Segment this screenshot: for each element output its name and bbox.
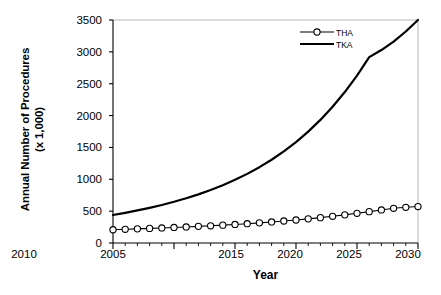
- series-marker-tha: [391, 205, 397, 211]
- series-marker-tha: [415, 203, 421, 209]
- series-marker-tha: [256, 220, 262, 226]
- series-marker-tha: [317, 215, 323, 221]
- series-marker-tha: [147, 225, 153, 231]
- series-marker-tha: [281, 218, 287, 224]
- plot-area: [0, 0, 441, 295]
- series-marker-tha: [171, 224, 177, 230]
- series-marker-tha: [110, 227, 116, 233]
- series-marker-tha: [293, 217, 299, 223]
- series-line-tka: [113, 20, 418, 215]
- series-marker-tha: [354, 210, 360, 216]
- series-marker-tha: [269, 219, 275, 225]
- series-marker-tha: [220, 222, 226, 228]
- series-marker-tha: [232, 221, 238, 227]
- series-marker-tha: [134, 226, 140, 232]
- series-marker-tha: [305, 216, 311, 222]
- series-marker-tha: [378, 207, 384, 213]
- chart-figure: Annual Number of Procedures (x 1,000) Ye…: [0, 0, 441, 295]
- series-marker-tha: [342, 212, 348, 218]
- series-marker-tha: [244, 221, 250, 227]
- series-marker-tha: [122, 226, 128, 232]
- series-marker-tha: [403, 204, 409, 210]
- series-marker-tha: [159, 225, 165, 231]
- series-marker-tha: [183, 224, 189, 230]
- series-marker-tha: [366, 209, 372, 215]
- series-marker-tha: [195, 223, 201, 229]
- series-marker-tha: [208, 223, 214, 229]
- legend-marker-tha: [314, 29, 320, 35]
- series-marker-tha: [330, 213, 336, 219]
